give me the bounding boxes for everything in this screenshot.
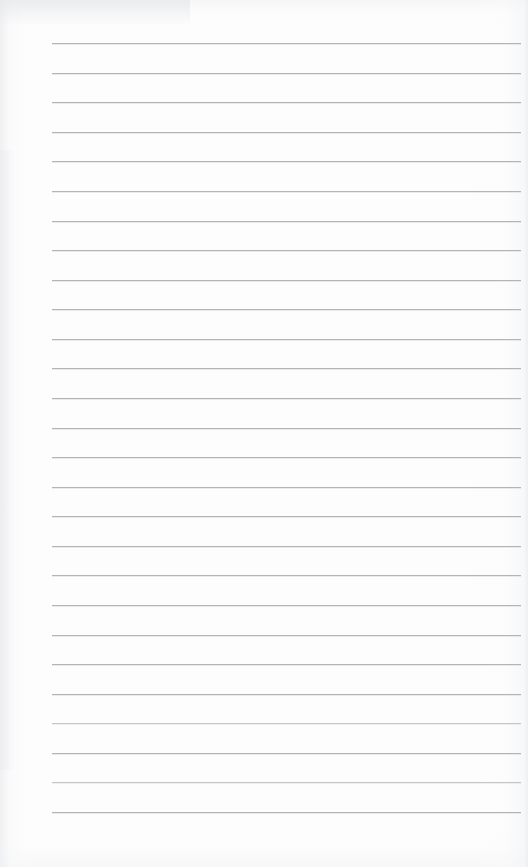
notepad-page: [0, 0, 528, 867]
page-writing-area[interactable]: [52, 18, 522, 828]
